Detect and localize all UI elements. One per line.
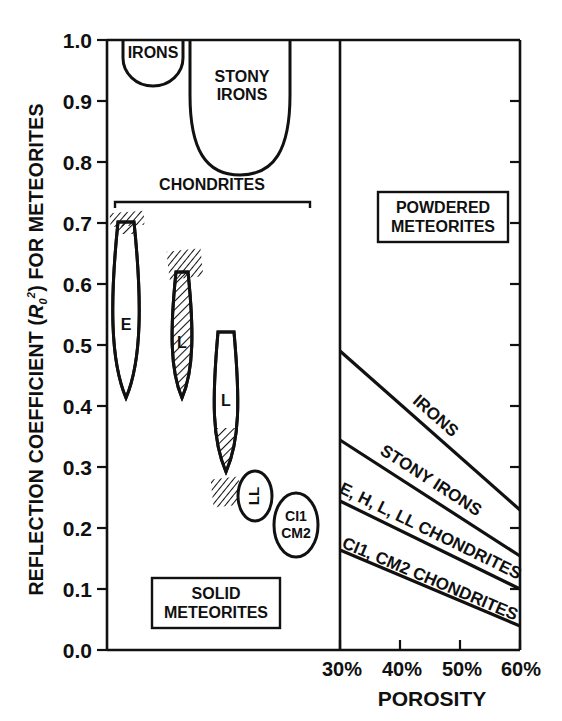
svg-text:POWDERED: POWDERED	[396, 199, 490, 216]
y-axis-label-symbol: R	[25, 304, 47, 318]
chondrites-bracket-label: CHONDRITES	[159, 176, 265, 193]
y-tick-label: 0.2	[63, 517, 92, 540]
region-h-tip-hatch	[167, 248, 204, 279]
region-e-tip-hatch	[110, 211, 145, 227]
region-e-label: E	[121, 316, 132, 333]
y-tick-label: 0.9	[63, 90, 92, 113]
y-tick-label: 0.5	[63, 334, 93, 357]
y-tick-label: 1.0	[63, 29, 92, 52]
y-axis-label: REFLECTION COEFFICIENT (R02) FOR METEORI…	[25, 19, 50, 679]
x-tick-label: 30%	[322, 658, 362, 680]
x-axis-label: POROSITY	[378, 687, 487, 710]
y-axis-label-post: ) FOR METEORITES	[25, 103, 47, 291]
svg-text:CM2: CM2	[281, 525, 311, 541]
region-stony-irons	[190, 40, 290, 175]
x-tick-label: 60%	[501, 658, 541, 680]
y-tick-label: 0.7	[63, 212, 92, 235]
svg-text:SOLID: SOLID	[192, 585, 241, 602]
region-l-label: L	[221, 392, 231, 409]
region-h-label: L	[177, 334, 187, 351]
region-irons-label: IRONS	[128, 44, 179, 61]
svg-text:STONY: STONY	[215, 68, 270, 85]
y-tick-label: 0.3	[63, 456, 92, 479]
y-tick-label: 0.1	[63, 578, 93, 601]
region-stony-irons-label: STONY IRONS	[215, 68, 270, 103]
y-axis-ticks	[97, 40, 107, 650]
x-axis-tick-labels: 30% 40% 50% 60%	[322, 658, 541, 680]
y-axis-label-subscript: 0	[37, 298, 49, 304]
y-tick-label: 0.6	[63, 273, 92, 296]
svg-text:METEORITES: METEORITES	[164, 604, 268, 621]
y-tick-label: 0.8	[63, 151, 93, 174]
region-ci1-cm2-label: CI1 CM2	[281, 508, 311, 541]
region-ll-label: LL	[245, 487, 262, 505]
right-axis-ticks	[510, 101, 520, 589]
y-axis-label-superscript: 2	[25, 292, 37, 298]
svg-text:CI1: CI1	[285, 508, 307, 524]
x-axis-ticks	[340, 640, 520, 650]
x-tick-label: 50%	[442, 658, 482, 680]
y-axis-tick-labels: 1.0 0.9 0.8 0.7 0.6 0.5 0.4 0.3 0.2 0.1 …	[63, 29, 93, 662]
x-tick-label: 40%	[382, 658, 422, 680]
y-tick-label: 0.0	[63, 639, 92, 662]
chart-svg: 1.0 0.9 0.8 0.7 0.6 0.5 0.4 0.3 0.2 0.1 …	[0, 0, 562, 721]
y-axis-label-pre: REFLECTION COEFFICIENT (	[25, 319, 47, 596]
chondrites-bracket	[115, 202, 310, 208]
series-label-irons: IRONS	[409, 391, 462, 441]
figure-container: REFLECTION COEFFICIENT (R02) FOR METEORI…	[0, 0, 562, 721]
svg-text:IRONS: IRONS	[217, 86, 268, 103]
series-label-ci1-cm2-chondrites: CI1, CM2 CHONDRITES	[339, 533, 520, 624]
region-l-hatch	[206, 428, 250, 480]
y-tick-label: 0.4	[63, 395, 93, 418]
svg-text:METEORITES: METEORITES	[391, 218, 495, 235]
